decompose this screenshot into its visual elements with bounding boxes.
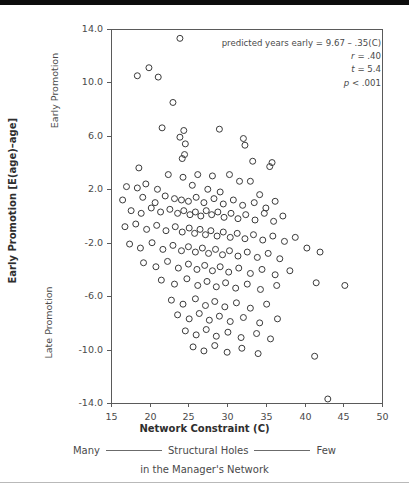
scatter-point [217, 264, 223, 270]
scatter-point [211, 196, 217, 202]
scatter-point [257, 192, 263, 198]
scatter-point [136, 165, 142, 171]
scatter-point [206, 250, 212, 256]
scatter-point [217, 189, 223, 195]
scatter-point [224, 349, 230, 355]
scatter-point [154, 222, 160, 228]
annotation-r: r = .40 [222, 50, 381, 63]
scatter-point [202, 302, 208, 308]
scatter-point [178, 248, 184, 254]
x-tick-label: 50 [363, 411, 403, 422]
scatter-point [313, 280, 319, 286]
scatter-point [247, 270, 253, 276]
scatter-point [198, 213, 204, 219]
scatter-point [240, 315, 246, 321]
scatter-point [141, 260, 147, 266]
scatter-point [228, 210, 234, 216]
scatter-point [226, 172, 232, 178]
scatter-point [199, 245, 205, 251]
x-tick-label: 15 [92, 411, 132, 422]
scatter-point [194, 266, 200, 272]
scatter-point [227, 319, 233, 325]
scatter-point [204, 278, 210, 284]
scatter-point [264, 301, 270, 307]
scatter-point [193, 332, 199, 338]
scatter-point [250, 158, 256, 164]
scatter-point [185, 244, 191, 250]
scatter-point [149, 240, 155, 246]
scatter-point [201, 348, 207, 354]
scatter-point [240, 136, 246, 142]
scatter-point [272, 198, 278, 204]
annotation-p: p < .001 [222, 77, 381, 90]
scatter-point [274, 316, 280, 322]
scatter-point [270, 233, 276, 239]
scatter-point [221, 214, 227, 220]
scatter-point [277, 256, 283, 262]
scatter-point [154, 186, 160, 192]
scatter-point [208, 228, 214, 234]
x-sub-left-rule [106, 450, 162, 451]
scatter-point [265, 250, 271, 256]
scatter-point [237, 178, 243, 184]
scatter-point [158, 209, 164, 215]
scatter-point [146, 65, 152, 71]
scatter-point [178, 197, 184, 203]
scatter-point [140, 194, 146, 200]
scatter-point [209, 268, 215, 274]
scatter-point [247, 178, 253, 184]
scatter-point [162, 193, 168, 199]
scatter-point [280, 213, 286, 219]
scatter-point [133, 221, 139, 227]
scatter-point [177, 134, 183, 140]
scatter-point [238, 335, 244, 341]
scatter-point [190, 344, 196, 350]
scatter-point [180, 301, 186, 307]
scatter-point [165, 258, 171, 264]
x-axis-title: Network Constraint (C) [0, 423, 409, 434]
scatter-point [192, 296, 198, 302]
scatter-point [180, 174, 186, 180]
scatter-point [214, 233, 220, 239]
scatter-point [201, 200, 207, 206]
scatter-point [215, 209, 221, 215]
scatter-point [144, 226, 150, 232]
y-axis-bottom-annotation: Late Promotion [43, 263, 54, 383]
annotation-t: t = 5.4 [222, 63, 381, 76]
scatter-point [213, 246, 219, 252]
scatter-point [152, 200, 158, 206]
scatter-point [175, 312, 181, 318]
scatter-point [247, 305, 253, 311]
scatter-point [304, 245, 310, 251]
scatter-point [251, 200, 257, 206]
scatter-point [203, 327, 209, 333]
scatter-point [192, 230, 198, 236]
scatter-point [195, 282, 201, 288]
annotation-r-symbol: r [351, 51, 355, 61]
scatter-point [138, 210, 144, 216]
scatter-point [127, 241, 133, 247]
scatter-point [233, 300, 239, 306]
scatter-point [196, 311, 202, 317]
scatter-point [227, 234, 233, 240]
scatter-point [252, 217, 258, 223]
scatter-point [197, 226, 203, 232]
scatter-point [167, 206, 173, 212]
scatter-point [274, 282, 280, 288]
scatter-point [312, 353, 318, 359]
scatter-point [233, 285, 239, 291]
scatter-point [168, 297, 174, 303]
y-tick-label: -6.0 [59, 290, 103, 301]
scatter-point [216, 126, 222, 132]
scatter-point [192, 249, 198, 255]
scatter-point [236, 265, 242, 271]
scatter-point [153, 264, 159, 270]
y-tick-label: -10.0 [59, 344, 103, 355]
x-tick-label: 35 [247, 411, 287, 422]
y-axis-top-annotation: Early Promotion [49, 31, 60, 151]
scatter-point [185, 198, 191, 204]
scatter-point [170, 99, 176, 105]
scatter-point [242, 236, 248, 242]
scatter-point [181, 208, 187, 214]
y-tick-label: 6.0 [59, 130, 103, 141]
